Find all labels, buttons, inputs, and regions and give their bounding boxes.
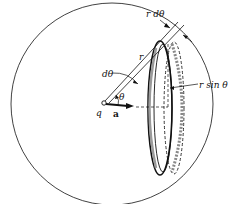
charge-point: [102, 101, 106, 105]
accel-vector: [106, 104, 128, 106]
ring-inner-edge: [154, 44, 172, 172]
arrowhead: [126, 103, 134, 109]
ring-back-edge: [164, 42, 184, 174]
label-r: r: [139, 52, 144, 62]
label-r-dtheta: r dθ: [146, 9, 165, 19]
label-a: a: [113, 109, 119, 119]
ring-back-hatch: [172, 44, 182, 172]
sphere-ring-diagram: r dθ r dθ θ r sin θ q a: [0, 0, 234, 204]
label-q: q: [96, 108, 102, 118]
diagram-canvas: r dθ r dθ θ r sin θ q a: [0, 0, 234, 204]
arrowhead: [133, 80, 138, 84]
rsintheta-pointer: [170, 84, 198, 88]
label-theta: θ: [119, 92, 125, 102]
ring-outer-edge: [148, 41, 172, 175]
label-dtheta: dθ: [102, 69, 114, 79]
label-r-sin-theta: r sin θ: [199, 80, 228, 90]
